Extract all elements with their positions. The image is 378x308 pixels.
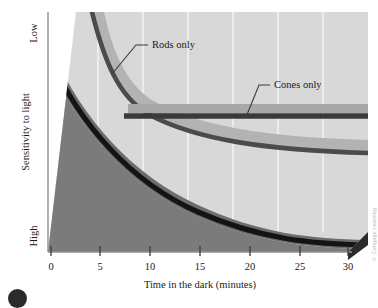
figure-bullet-marker	[8, 289, 27, 308]
x-tick-label-1: 5	[97, 261, 102, 272]
y-axis-low-label: Low	[28, 23, 39, 43]
x-tick-label-0: 0	[48, 261, 53, 272]
x-tick-label-3: 15	[195, 261, 206, 272]
x-tick-label-6: 30	[343, 261, 354, 272]
copyright-credit: © Cengage Learning	[371, 208, 377, 262]
annotation-rods-only-label: Rods only	[152, 39, 196, 50]
series-cones-only	[124, 104, 372, 116]
annotation-cones-only-label: Cones only	[274, 79, 322, 90]
y-axis-title: Sensitivity to light	[20, 93, 31, 171]
x-axis-title: Time in the dark (minutes)	[144, 279, 257, 291]
x-tick-label-5: 25	[295, 261, 306, 272]
x-tick-label-4: 20	[245, 261, 256, 272]
x-tick-labels: 0 5 10 15 20 25 30	[48, 261, 353, 272]
y-axis-high-label: High	[28, 225, 39, 247]
x-tick-label-2: 10	[145, 261, 156, 272]
